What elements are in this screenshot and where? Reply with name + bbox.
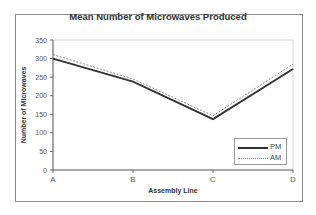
- y-tick-label: 150: [35, 111, 47, 118]
- y-tick-label: 50: [39, 148, 47, 155]
- y-tick-label: 200: [35, 92, 47, 99]
- y-tick-label: 0: [43, 167, 47, 174]
- x-tick-label: C: [210, 175, 216, 184]
- solid-line-icon: [238, 147, 268, 149]
- legend: PM AM: [234, 138, 287, 165]
- x-tick-label: A: [50, 175, 56, 184]
- y-tick-label: 300: [35, 55, 47, 62]
- x-tick-label: D: [290, 175, 296, 184]
- legend-item-pm: PM: [238, 142, 286, 152]
- series-line-am: [53, 54, 293, 115]
- y-tick-label: 250: [35, 74, 47, 81]
- legend-item-am: AM: [238, 153, 286, 163]
- y-tick-label: 350: [35, 37, 47, 44]
- series-line-pm: [53, 59, 293, 120]
- x-tick-label: B: [130, 175, 135, 184]
- plot-area: 050100150200250300350ABCD: [0, 0, 316, 215]
- dotted-line-icon: [238, 158, 268, 159]
- y-tick-label: 100: [35, 129, 47, 136]
